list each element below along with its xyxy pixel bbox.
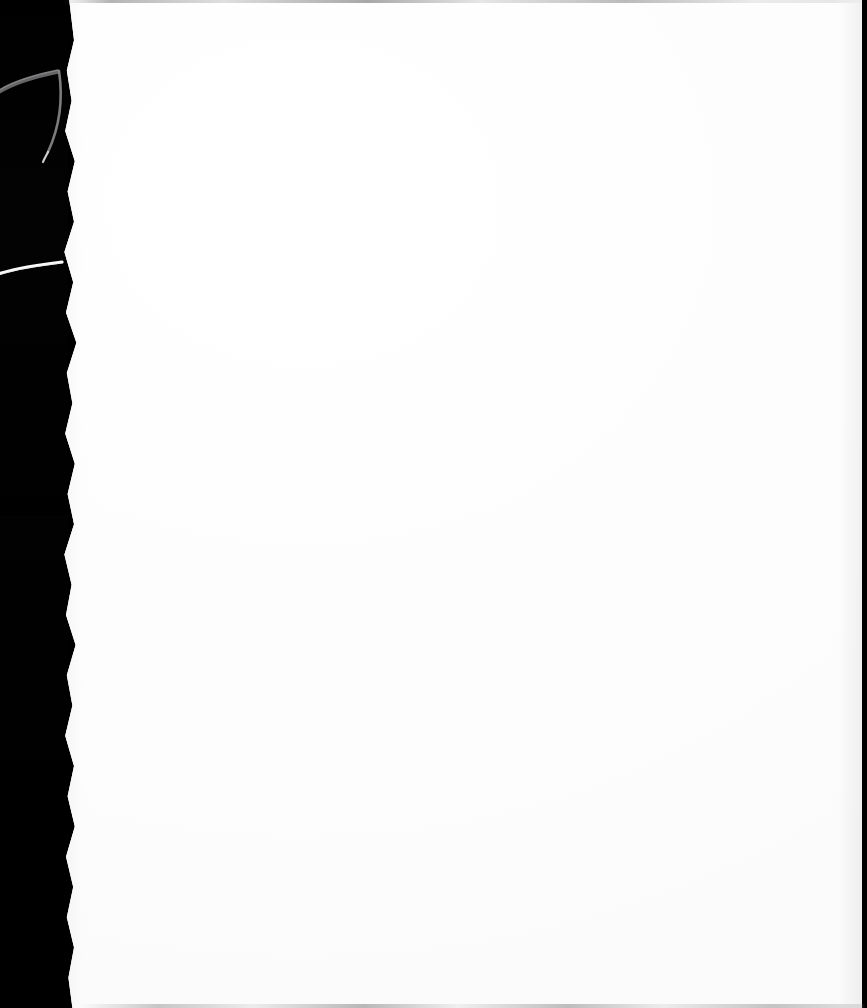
page-body-text	[122, 60, 802, 948]
document-page	[62, 0, 862, 1008]
scanner-bed-tone-lower	[0, 516, 68, 1008]
scanner-bed-tone-upper	[0, 0, 68, 520]
scanned-document-canvas	[0, 0, 867, 1008]
